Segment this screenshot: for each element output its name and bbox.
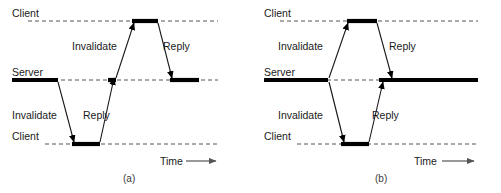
- time-axis-label: Time: [414, 155, 437, 167]
- message-label-reply-up: Reply: [372, 109, 400, 121]
- cache-invalidation-sequence-figure: ClientServerClientInvalidateReplyInvalid…: [0, 0, 501, 193]
- panel-a: ClientServerClientInvalidateReplyInvalid…: [12, 7, 218, 184]
- panel-caption-a: (a): [123, 173, 135, 184]
- lane-label-client-top: Client: [12, 7, 39, 19]
- lane-label-client-top: Client: [264, 7, 291, 19]
- diagram-canvas: ClientServerClientInvalidateReplyInvalid…: [0, 0, 501, 193]
- lane-label-server-middle: Server: [264, 66, 295, 78]
- lane-label-client-bottom: Client: [12, 130, 39, 142]
- panel-caption-b: (b): [375, 173, 387, 184]
- message-label-reply-up: Reply: [83, 109, 111, 121]
- message-label-invalidate-down: Invalidate: [12, 109, 57, 121]
- message-arrow-invalidate-up: [116, 23, 134, 78]
- message-label-invalidate-up: Invalidate: [72, 40, 117, 52]
- time-axis-label: Time: [160, 155, 183, 167]
- panel-b: ClientServerClientInvalidateReplyInvalid…: [264, 7, 478, 184]
- message-arrow-invalidate-up: [329, 23, 348, 78]
- message-label-invalidate-up: Invalidate: [278, 40, 323, 52]
- message-arrow-invalidate-down: [329, 82, 344, 142]
- message-label-reply-down: Reply: [389, 40, 417, 52]
- message-arrow-invalidate-down: [58, 82, 74, 142]
- message-label-invalidate-down: Invalidate: [278, 109, 323, 121]
- lane-label-client-bottom: Client: [264, 130, 291, 142]
- message-label-reply-down: Reply: [163, 40, 191, 52]
- lane-label-server-middle: Server: [12, 66, 43, 78]
